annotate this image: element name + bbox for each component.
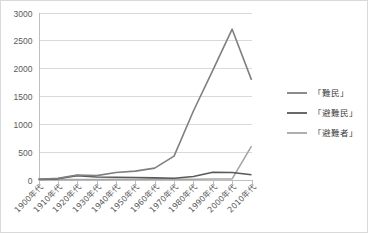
series-line-1[interactable] [39,29,252,179]
y-axis-tick-label: 2500 [14,36,33,46]
series-line-3[interactable] [39,146,252,179]
y-axis-tick-label: 1500 [14,92,33,102]
y-axis-tick-label: 500 [18,148,32,158]
y-axis-tick-label: 3000 [14,9,33,19]
y-axis-tick-label: 0 [28,176,33,186]
legend-label-2[interactable]: 「避難民」 [313,108,358,118]
legend-label-3[interactable]: 「避難者」 [313,128,358,138]
gridlines [39,14,252,181]
y-axis-tick-labels: 050010001500200025003000 [14,9,33,186]
chart-plot-wrapper: 050010001500200025003000 1900年代1910年代192… [1,1,367,232]
y-axis-tick-label: 2000 [14,64,33,74]
y-axis-tick-label: 1000 [14,120,33,130]
data-series-lines[interactable] [39,29,252,179]
x-axis-tick-labels: 1900年代1910年代1920年代1930年代1940年代1950年代1960… [12,182,258,215]
line-chart[interactable]: 050010001500200025003000 1900年代1910年代192… [1,1,367,232]
chart-legend[interactable]: 「難民」「避難民」「避難者」 [287,88,358,138]
legend-label-1[interactable]: 「難民」 [313,88,349,98]
chart-container: 050010001500200025003000 1900年代1910年代192… [0,0,368,233]
